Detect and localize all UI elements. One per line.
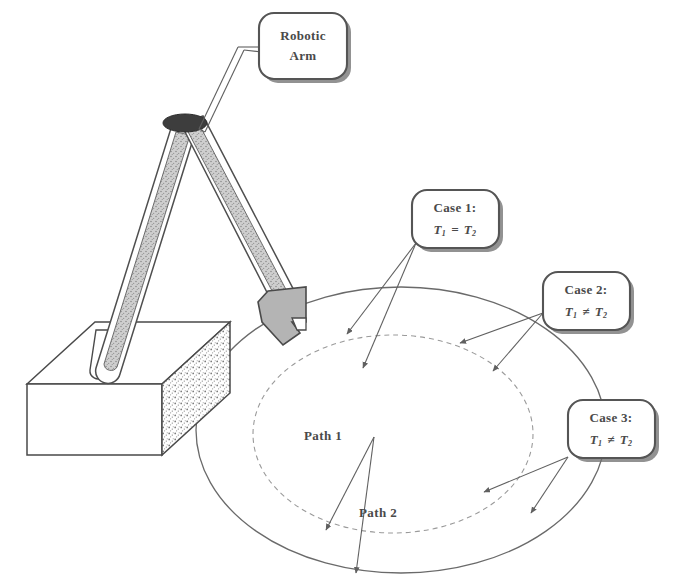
path-2-label: Path 2 (359, 505, 397, 520)
inner-path-ellipse (253, 335, 533, 533)
case1-lhs-sub: 1 (442, 229, 446, 238)
callout-case-1[interactable]: Case 1: T1=T2 (347, 190, 503, 368)
callout-box[interactable] (568, 400, 655, 458)
callout-case-3[interactable]: Case 3: T1≠T2 (484, 400, 659, 513)
gripper-end-effector (258, 287, 306, 345)
case2-op: ≠ (582, 304, 589, 319)
callout-box[interactable] (543, 272, 630, 330)
case2-lhs-sub: 1 (573, 311, 577, 320)
path-1-label: Path 1 (304, 428, 342, 443)
callout-case-1-line1: Case 1: (434, 200, 477, 215)
callout-case-3-formula: T1≠T2 (590, 432, 633, 448)
case3-leader-b (531, 457, 568, 513)
callout-box[interactable] (259, 13, 347, 79)
callout-robotic-arm-line2: Arm (290, 48, 317, 63)
case3-lhs-sub: 1 (598, 439, 602, 448)
callout-box[interactable] (412, 190, 499, 248)
upper-arm-segment (181, 116, 299, 312)
case1-rhs-sub: 2 (471, 229, 476, 238)
upper-arm-texture (186, 124, 292, 306)
callout-case-3-line1: Case 3: (590, 410, 633, 425)
case1-leader-b (363, 243, 416, 368)
callout-case-1-formula: T1=T2 (434, 222, 477, 238)
robotic-arm-path-diagram: Path 1 Path 2 (0, 0, 697, 583)
case3-rhs-sub: 2 (627, 439, 632, 448)
case1-leader-a (347, 243, 416, 334)
case2-rhs-sub: 2 (602, 311, 607, 320)
callout-case-2-formula: T1≠T2 (565, 304, 608, 320)
case1-op: = (451, 222, 459, 237)
callout-case-2[interactable]: Case 2: T1≠T2 (460, 272, 634, 371)
path-ellipse-group (196, 287, 606, 573)
callout-case-2-line1: Case 2: (565, 282, 608, 297)
callout-robotic-arm-line1: Robotic (280, 28, 325, 43)
callout-robotic-arm[interactable]: Robotic Arm (199, 13, 351, 132)
outer-path-ellipse (196, 287, 606, 573)
case3-leader-a (484, 457, 568, 492)
case3-op: ≠ (607, 432, 614, 447)
figure-root: Path 1 Path 2 (0, 0, 697, 583)
